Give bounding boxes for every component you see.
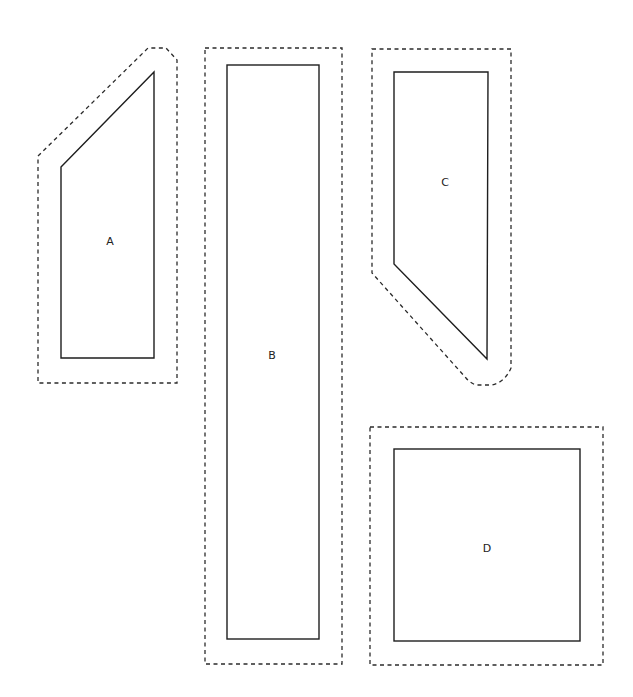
piece-b-label: B <box>268 349 276 362</box>
piece-c-outline <box>394 72 488 359</box>
piece-c-label: C <box>441 176 449 189</box>
piece-d-label: D <box>483 542 491 555</box>
piece-c-seam-allowance <box>372 49 511 385</box>
piece-b: B <box>205 48 342 664</box>
piece-a: A <box>38 48 177 383</box>
piece-a-seam-allowance <box>38 48 177 383</box>
piece-d: D <box>370 427 603 665</box>
piece-a-outline <box>61 72 154 358</box>
pattern-diagram: A B C D <box>0 0 633 697</box>
piece-a-label: A <box>106 235 114 248</box>
piece-c: C <box>372 49 511 385</box>
